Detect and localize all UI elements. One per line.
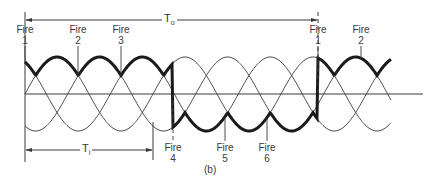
fire-label-1: Fire1 <box>303 24 333 46</box>
fire-label-number: 2 <box>346 35 376 46</box>
fire-label-word: Fire <box>303 24 333 35</box>
fire-label-4: Fire4 <box>158 142 188 164</box>
fire-label-word: Fire <box>158 142 188 153</box>
fire-label-number: 3 <box>106 35 136 46</box>
fire-label-number: 5 <box>210 153 240 164</box>
output-period-label: To <box>162 12 177 26</box>
fire-label-3: Fire3 <box>106 24 136 46</box>
fire-label-word: Fire <box>346 24 376 35</box>
fire-label-number: 1 <box>10 35 40 46</box>
fire-label-word: Fire <box>10 24 40 35</box>
fire-label-5: Fire5 <box>210 142 240 164</box>
fire-label-word: Fire <box>63 24 93 35</box>
figure-caption: (b) <box>204 164 216 175</box>
fire-label-number: 6 <box>252 153 282 164</box>
fire-label-2: Fire2 <box>63 24 93 46</box>
fire-label-word: Fire <box>252 142 282 153</box>
fire-label-2: Fire2 <box>346 24 376 46</box>
fire-label-word: Fire <box>210 142 240 153</box>
fire-label-word: Fire <box>106 24 136 35</box>
input-period-label: Ti <box>80 142 92 156</box>
fire-label-1: Fire1 <box>10 24 40 46</box>
fire-label-number: 1 <box>303 35 333 46</box>
fire-label-number: 4 <box>158 153 188 164</box>
fire-label-number: 2 <box>63 35 93 46</box>
fire-label-6: Fire6 <box>252 142 282 164</box>
